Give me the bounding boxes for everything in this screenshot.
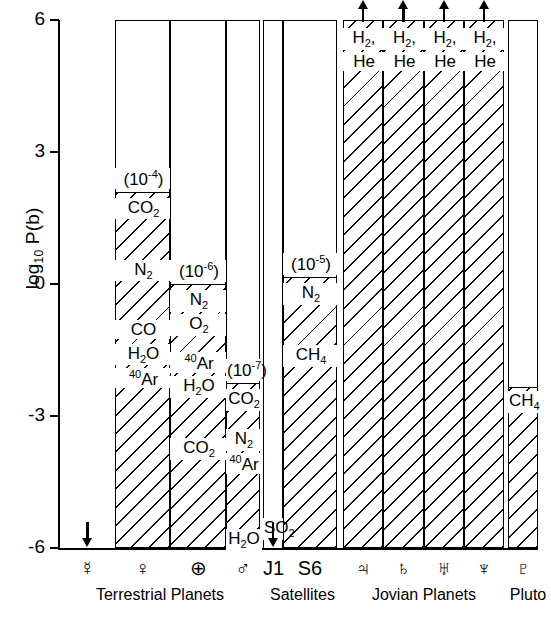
mercury-symbol: ☿ — [60, 558, 115, 578]
species-labels-titan: N2CH4 — [283, 277, 337, 548]
species-label: He — [383, 52, 426, 71]
species-label: H2, — [343, 28, 385, 50]
neptune-symbol: ♆ — [464, 558, 504, 578]
y-tick-label: 3 — [5, 140, 45, 162]
species-labels-uranus: H2,He — [424, 20, 464, 548]
species-label: CO — [115, 320, 172, 339]
column-outline-mars — [226, 20, 260, 383]
column-outline-io — [263, 20, 283, 548]
species-labels-neptune: H2,He — [464, 20, 504, 548]
species-label: He — [464, 52, 506, 71]
arrow-down-icon — [82, 538, 92, 547]
column-outline-titan — [283, 20, 337, 277]
pluto-symbol: ♇ — [508, 558, 538, 578]
column-outline-earth — [170, 20, 226, 284]
arrow-up-icon — [398, 0, 408, 9]
species-label: 40Ar — [115, 368, 172, 389]
species-label: 40Ar — [170, 352, 228, 373]
species-label: CH4 — [283, 345, 339, 367]
chart-root: log10 P(b) 630-3-6 (10-4)CO2N2COH2O40Ar(… — [0, 0, 551, 619]
species-label: CO2 — [115, 198, 172, 220]
species-label: 40Ar — [226, 453, 262, 474]
species-label: H2O — [115, 344, 172, 366]
y-tick-label: -3 — [5, 404, 45, 426]
y-tick-label: 6 — [5, 8, 45, 30]
arrow-up-icon — [479, 0, 489, 9]
species-label: O2 — [170, 314, 228, 336]
species-label: CO2 — [226, 389, 262, 411]
surface-pressure-label-mars: (10-7) — [226, 359, 262, 381]
species-labels-mars: CO2N240ArH2O — [226, 383, 260, 548]
species-label: H2O — [226, 529, 262, 551]
species-labels-venus: CO2N2COH2O40Ar — [115, 192, 170, 548]
species-label: CH4 — [508, 391, 540, 413]
species-label: He — [343, 52, 385, 71]
species-label: CO2 — [170, 438, 228, 460]
venus-symbol: ♀ — [115, 558, 170, 578]
species-label: N2 — [170, 290, 228, 312]
species-labels-earth: N2O240ArH2OCO2 — [170, 284, 226, 548]
surface-pressure-label-earth: (10-6) — [170, 260, 228, 282]
arrow-up-icon — [358, 0, 368, 9]
y-tick-label: -6 — [5, 536, 45, 558]
group-label-pluto: Pluto — [505, 586, 551, 604]
y-axis-title: log10 P(b) — [22, 138, 47, 358]
surface-pressure-label-titan: (10-5) — [283, 253, 339, 275]
species-labels-pluto: CH4 — [508, 387, 538, 548]
group-label-terrestrial-planets: Terrestrial Planets — [58, 586, 262, 604]
group-label-jovian-planets: Jovian Planets — [343, 586, 505, 604]
species-labels-jupiter: H2,He — [343, 20, 383, 548]
species-label: N2 — [283, 283, 339, 305]
surface-pressure-label-venus: (10-4) — [115, 168, 172, 190]
jupiter-symbol: ♃ — [343, 558, 383, 578]
column-outline-pluto — [508, 20, 538, 387]
species-label: N2 — [226, 429, 262, 451]
species-label: He — [424, 52, 466, 71]
io-label: J1 — [263, 558, 283, 578]
column-outline-venus — [115, 20, 170, 192]
species-label: H2, — [464, 28, 506, 50]
saturn-symbol: ♄ — [383, 558, 424, 578]
y-axis-line — [58, 20, 60, 550]
species-label: H2, — [424, 28, 466, 50]
earth-symbol: ⊕ — [170, 558, 226, 578]
uranus-symbol: ♅ — [424, 558, 464, 578]
species-label: H2O — [170, 376, 228, 398]
titan-label: S6 — [283, 558, 337, 578]
arrow-down-icon — [268, 538, 278, 547]
y-tick-label: 0 — [5, 272, 45, 294]
group-label-satellites: Satellites — [262, 586, 343, 604]
arrow-up-icon — [439, 0, 449, 9]
x-axis-line — [58, 548, 538, 550]
species-labels-saturn: H2,He — [383, 20, 424, 548]
species-label: H2, — [383, 28, 426, 50]
mars-symbol: ♂ — [226, 558, 260, 578]
species-label: N2 — [115, 260, 172, 282]
